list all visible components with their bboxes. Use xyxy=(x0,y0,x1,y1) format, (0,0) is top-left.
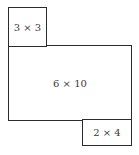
bottom-right-rectangle: 2 × 4 xyxy=(82,119,132,146)
bottom-right-rectangle-label: 2 × 4 xyxy=(93,127,120,138)
top-left-rectangle: 3 × 3 xyxy=(8,7,47,47)
top-left-rectangle-label: 3 × 3 xyxy=(14,22,41,33)
main-rectangle-label: 6 × 10 xyxy=(53,78,87,89)
main-rectangle: 6 × 10 xyxy=(8,45,132,121)
